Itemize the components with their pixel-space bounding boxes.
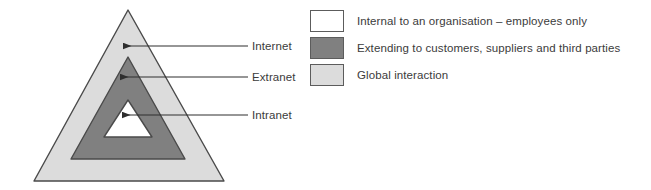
nested-triangle-diagram: Internet Extranet Intranet — [0, 0, 310, 190]
legend-label-extending: Extending to customers, suppliers and th… — [357, 41, 620, 55]
legend-swatch-internal — [310, 10, 344, 32]
legend-item-global: Global interaction — [310, 62, 651, 88]
callout-label-internet: Internet — [252, 40, 292, 53]
legend-item-internal: Internal to an organisation – employees … — [310, 8, 651, 34]
callout-label-extranet: Extranet — [252, 71, 296, 84]
triangle-layers-graphic — [0, 0, 310, 190]
legend-label-global: Global interaction — [357, 68, 448, 82]
legend-swatch-extending — [310, 37, 344, 59]
legend-label-internal: Internal to an organisation – employees … — [357, 14, 587, 28]
legend-item-extending: Extending to customers, suppliers and th… — [310, 35, 651, 61]
callout-label-intranet: Intranet — [252, 109, 292, 122]
legend-swatch-global — [310, 64, 344, 86]
diagram-canvas: Internet Extranet Intranet Internal to a… — [0, 0, 651, 190]
legend: Internal to an organisation – employees … — [310, 8, 651, 89]
